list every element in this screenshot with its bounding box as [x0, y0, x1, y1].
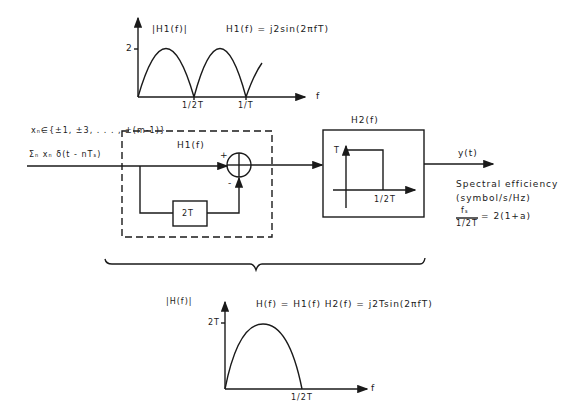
fraction-numerator: fₛ	[461, 206, 469, 215]
bottom-y-tick: 2T	[208, 318, 220, 327]
input-alphabet: xₙ∈{±1, ±3, . . . , ±(m-1)}	[31, 126, 166, 135]
h2-y-tick: T	[334, 146, 340, 155]
fraction-denominator: 1/2T	[456, 219, 478, 228]
overall-brace	[105, 258, 425, 270]
delay-label: 2T	[182, 209, 194, 218]
input-signal: Σₙ xₙ δ(t - nTₛ)	[29, 150, 101, 159]
bottom-chart	[221, 302, 367, 389]
h2-x-tick: 1/2T	[374, 195, 396, 204]
h1-arch-3-partial	[246, 63, 262, 97]
feedback-path-right	[207, 178, 239, 213]
top-x-tick-one: 1/T	[238, 101, 254, 110]
h2-rect-response	[346, 150, 383, 190]
top-y-label: |H1(f)|	[152, 24, 188, 34]
top-formula: H1(f) = j2sin(2πfT)	[226, 24, 329, 34]
h1-arch-1	[138, 49, 194, 98]
spectral-efficiency-title: Spectral efficiency	[456, 179, 558, 189]
spectral-efficiency-rhs: = 2(1+a)	[481, 211, 531, 221]
bottom-formula: H(f) = H1(f) H2(f) = j2Tsin(2πfT)	[256, 299, 433, 309]
bottom-x-axis-label: f	[371, 383, 375, 393]
output-label: y(t)	[458, 148, 478, 158]
top-x-axis-label: f	[316, 91, 320, 101]
h1-title: H1(f)	[177, 140, 205, 150]
top-y-tick: 2	[126, 43, 133, 53]
summer-plus: +	[220, 150, 229, 160]
bottom-x-tick: 1/2T	[291, 393, 313, 402]
h2-title: H2(f)	[351, 115, 379, 125]
feedback-path-left	[140, 166, 173, 213]
bottom-y-label: |H(f)|	[166, 297, 192, 306]
h-half-sine	[225, 324, 302, 389]
h1-arch-2	[194, 49, 246, 98]
spectral-efficiency-units: (symbol/s/Hz)	[456, 193, 531, 203]
summer-minus: -	[228, 178, 232, 188]
top-x-tick-half: 1/2T	[182, 101, 204, 110]
